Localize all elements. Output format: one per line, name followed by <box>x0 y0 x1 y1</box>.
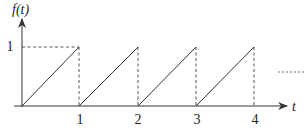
sawtooth-chart: f(t) t 1 1 2 3 4 <box>0 0 307 137</box>
x-tick-4: 4 <box>252 112 259 127</box>
ramp-3 <box>138 47 196 106</box>
dashed-guides <box>22 47 254 106</box>
x-axis-label: t <box>292 99 297 114</box>
ramp-4 <box>196 47 254 106</box>
ramp-2 <box>79 47 138 106</box>
x-tick-1: 1 <box>77 112 84 127</box>
ramp-1 <box>22 47 79 106</box>
y-axis-label: f(t) <box>12 2 29 18</box>
continuation-ellipsis <box>278 71 304 73</box>
x-tick-3: 3 <box>194 112 201 127</box>
x-tick-2: 2 <box>135 112 142 127</box>
y-tick-1: 1 <box>7 39 14 54</box>
